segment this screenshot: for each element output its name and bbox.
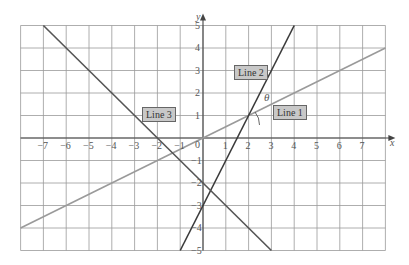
- line-2-label: Line 2: [234, 65, 268, 80]
- y-axis-label: y: [196, 12, 200, 22]
- theta-label: θ: [264, 92, 269, 103]
- x-tick-label: 4: [291, 141, 296, 151]
- x-tick-label: −5: [83, 141, 94, 151]
- y-tick-label: −1: [191, 156, 202, 166]
- x-tick-label: −7: [37, 141, 48, 151]
- y-tick-label: 5: [195, 21, 200, 31]
- x-tick-label: −6: [60, 141, 71, 151]
- y-tick-label: 3: [195, 66, 200, 76]
- x-tick-label: 6: [337, 141, 342, 151]
- x-tick-label: 3: [268, 141, 273, 151]
- x-tick-label: 7: [360, 141, 365, 151]
- x-axis-label: x: [390, 138, 394, 148]
- y-tick-label: 2: [195, 88, 200, 98]
- x-tick-label: 5: [314, 141, 319, 151]
- x-tick-label: −3: [129, 141, 140, 151]
- x-tick-label: −4: [106, 141, 117, 151]
- coordinate-plane: [0, 0, 409, 265]
- y-tick-label: −2: [191, 178, 202, 188]
- x-tick-label: 1: [223, 141, 228, 151]
- line-1-label: Line 1: [273, 105, 307, 120]
- y-tick-label: 1: [195, 111, 200, 121]
- x-tick-label: 0: [195, 140, 200, 150]
- line-3-label: Line 3: [142, 107, 176, 122]
- x-tick-label: −1: [174, 141, 185, 151]
- x-tick-label: 2: [246, 141, 251, 151]
- theta-arc: [255, 112, 260, 125]
- y-tick-label: −3: [191, 201, 202, 211]
- y-tick-label: −4: [191, 223, 202, 233]
- y-tick-label: −5: [191, 246, 202, 256]
- x-tick-label: −2: [151, 141, 162, 151]
- y-tick-label: 4: [195, 43, 200, 53]
- axes: [21, 14, 396, 251]
